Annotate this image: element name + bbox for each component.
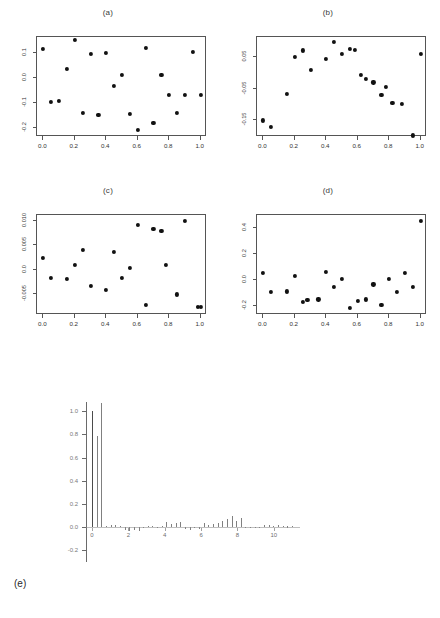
- data-point: [144, 303, 148, 307]
- panel-c-x-tick: [168, 314, 169, 318]
- data-point: [340, 277, 344, 281]
- panel-e-y-tick-label: 1.0: [70, 408, 78, 414]
- data-point: [308, 68, 312, 72]
- panel-e-y-tick: [82, 434, 86, 435]
- panel-d-x-tick-label: 1.0: [415, 320, 424, 327]
- panel-b-y-tick: [253, 88, 257, 89]
- data-point: [400, 101, 404, 105]
- data-point: [293, 55, 297, 59]
- panel-d-x-tick: [262, 314, 263, 318]
- data-point: [199, 305, 203, 309]
- panel-a-x-tick-label: 0.0: [38, 142, 47, 149]
- panel-e-spike: [101, 403, 102, 527]
- data-point: [159, 229, 163, 233]
- panel-a-x-tick: [200, 136, 201, 140]
- panel-b-y-tick: [253, 56, 257, 57]
- panel-a-title: (a): [2, 8, 214, 17]
- data-point: [293, 274, 297, 278]
- data-point: [411, 285, 415, 289]
- data-point: [305, 298, 309, 302]
- panel-a-x-tick: [42, 136, 43, 140]
- data-point: [379, 93, 383, 97]
- panel-a-x-tick: [137, 136, 138, 140]
- panel-b-x-tick-label: 0.4: [321, 142, 330, 149]
- data-point: [411, 133, 415, 137]
- data-point: [395, 290, 399, 294]
- panel-c-x-tick-label: 0.0: [38, 320, 47, 327]
- panel-e-spike: [232, 516, 233, 527]
- panel-d: (d)0.40.20.0-0.20.00.20.40.60.81.0: [222, 186, 434, 358]
- data-point: [167, 92, 171, 96]
- panel-e-x-tick-label: 0: [90, 532, 93, 538]
- panel-e-y-tick-label: 0.6: [70, 455, 78, 461]
- data-point: [269, 125, 273, 129]
- data-point: [151, 227, 155, 231]
- panel-e-x-tick: [165, 528, 166, 531]
- panel-a-y-tick-label: 0.0: [21, 73, 27, 81]
- panel-e-x-tick: [274, 528, 275, 531]
- data-point: [49, 276, 53, 280]
- panel-d-title: (d): [222, 186, 434, 195]
- panel-d-x-tick: [294, 314, 295, 318]
- panel-c-y-tick: [33, 293, 37, 294]
- data-point: [128, 266, 132, 270]
- data-point: [183, 219, 187, 223]
- data-point: [104, 51, 108, 55]
- panel-c-x-tick-label: 1.0: [195, 320, 204, 327]
- panel-c: (c)0.0100.0050.0-0.0050.00.20.40.60.81.0: [2, 186, 214, 358]
- panel-d-x-tick: [325, 314, 326, 318]
- panel-b-y-tick: [253, 119, 257, 120]
- panel-c-y-tick-label: 0.0: [21, 265, 27, 273]
- data-point: [340, 51, 344, 55]
- panel-e-x-tick: [128, 528, 129, 531]
- panel-a-plot-area: [36, 36, 206, 136]
- panel-a-y-tick-label: -0.2: [21, 122, 27, 132]
- panel-c-x-tick-label: 0.2: [69, 320, 78, 327]
- data-point: [316, 297, 320, 301]
- data-point: [199, 93, 203, 97]
- panel-c-y-tick: [33, 220, 37, 221]
- panel-a-x-tick-label: 0.6: [132, 142, 141, 149]
- data-point: [352, 48, 356, 52]
- data-point: [96, 113, 100, 117]
- panel-a-y-tick: [33, 52, 37, 53]
- panel-e-y-tick: [82, 504, 86, 505]
- panel-d-y-tick-label: 0.0: [241, 275, 247, 283]
- panel-c-x-tick: [105, 314, 106, 318]
- panel-b-x-tick: [388, 136, 389, 140]
- panel-a-x-tick: [105, 136, 106, 140]
- panel-e-y-tick: [82, 550, 86, 551]
- panel-d-plot-area: [256, 214, 426, 314]
- data-point: [73, 38, 77, 42]
- panel-d-x-tick: [357, 314, 358, 318]
- data-point: [379, 303, 383, 307]
- panel-d-x-tick: [388, 314, 389, 318]
- data-point: [387, 277, 391, 281]
- panel-e-zero-line: [86, 527, 300, 528]
- panel-c-x-tick: [74, 314, 75, 318]
- data-point: [269, 290, 273, 294]
- data-point: [88, 52, 92, 56]
- panel-c-y-tick: [33, 244, 37, 245]
- data-point: [151, 121, 155, 125]
- panel-a-x-tick-label: 0.2: [69, 142, 78, 149]
- panel-a-y-tick: [33, 77, 37, 78]
- panel-e: 1.00.80.60.40.20.0-0.2 0246810: [52, 396, 292, 576]
- panel-e-label: (e): [14, 578, 26, 589]
- data-point: [191, 50, 195, 54]
- data-point: [384, 85, 388, 89]
- data-point: [65, 277, 69, 281]
- panel-b-x-tick-label: 0.8: [384, 142, 393, 149]
- data-point: [41, 47, 45, 51]
- data-point: [81, 111, 85, 115]
- data-point: [175, 292, 179, 296]
- panel-a-y-tick: [33, 102, 37, 103]
- panel-d-y-tick: [253, 227, 257, 228]
- data-point: [419, 51, 423, 55]
- panel-e-x-tick-label: 10: [270, 532, 277, 538]
- panel-e-y-tick-label: 0.0: [70, 524, 78, 530]
- panel-a-y-tick: [33, 127, 37, 128]
- data-point: [301, 48, 305, 52]
- panel-e-y-tick: [82, 411, 86, 412]
- data-point: [73, 263, 77, 267]
